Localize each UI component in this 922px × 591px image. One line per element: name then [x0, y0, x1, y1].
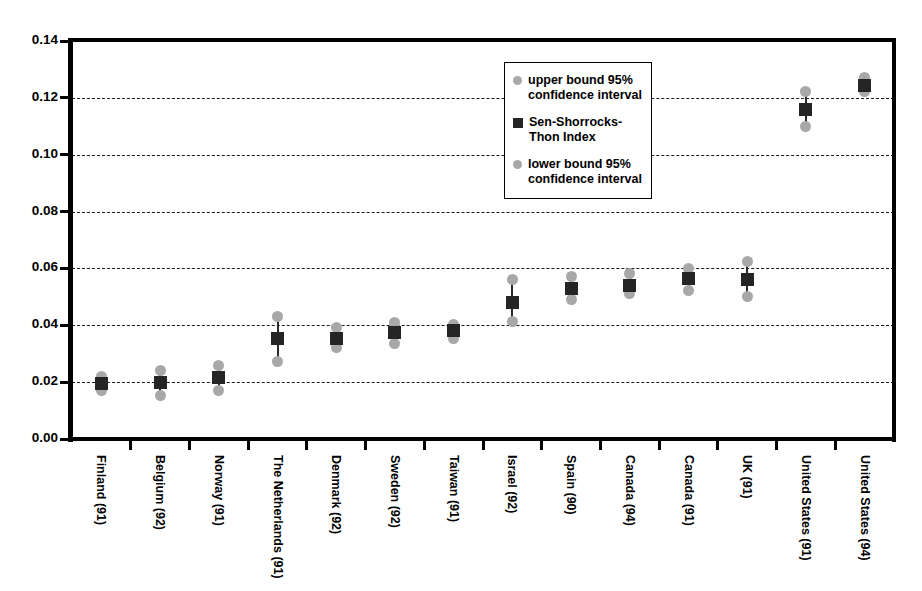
- lower-bound-point: [389, 338, 400, 349]
- legend-item-lower-bound: lower bound 95% confidence interval: [513, 157, 648, 187]
- lower-bound-point: [683, 285, 694, 296]
- x-tick-mark: [188, 437, 191, 450]
- index-point: [741, 273, 754, 286]
- lower-bound-point: [272, 356, 283, 367]
- index-point: [330, 332, 343, 345]
- y-tick-label: 0.00: [0, 430, 58, 445]
- index-point: [95, 377, 108, 390]
- lower-bound-marker-icon: [513, 160, 522, 169]
- x-category-label: Denmark (92): [329, 455, 342, 585]
- upper-bound-point: [213, 360, 224, 371]
- x-category-label: Finland (91): [94, 455, 107, 585]
- y-tick-label: 0.08: [0, 203, 58, 218]
- x-tick-mark: [775, 437, 778, 450]
- y-tick-label: 0.14: [0, 32, 58, 47]
- gridline: [72, 98, 894, 99]
- x-category-label: UK (91): [740, 455, 753, 585]
- chart-legend: upper bound 95% confidence interval Sen-…: [504, 62, 652, 199]
- index-point: [682, 272, 695, 285]
- x-category-label: Israel (92): [505, 455, 518, 585]
- legend-label-index: Sen-Shorrocks-Thon Index: [529, 115, 649, 145]
- x-category-label: Norway (91): [212, 455, 225, 585]
- x-tick-mark: [482, 437, 485, 450]
- upper-bound-point: [507, 274, 518, 285]
- axis-line-left: [68, 38, 73, 442]
- x-tick-mark: [599, 437, 602, 450]
- y-tick-label: 0.04: [0, 316, 58, 331]
- lower-bound-point: [566, 294, 577, 305]
- gridline: [72, 212, 894, 213]
- lower-bound-point: [155, 390, 166, 401]
- upper-bound-point: [566, 271, 577, 282]
- y-tick-label: 0.06: [0, 259, 58, 274]
- gridline: [72, 155, 894, 156]
- x-category-label: Canada (91): [682, 455, 695, 585]
- y-tick-label: 0.10: [0, 146, 58, 161]
- lower-bound-point: [742, 291, 753, 302]
- axis-line-top: [70, 38, 896, 42]
- gridline: [72, 268, 894, 269]
- legend-item-index: Sen-Shorrocks-Thon Index: [513, 115, 649, 145]
- x-category-label: United States (94): [858, 455, 871, 585]
- chart-canvas: 0.000.020.040.060.080.100.120.14 Finland…: [0, 0, 922, 591]
- upper-bound-point: [272, 311, 283, 322]
- lower-bound-point: [800, 121, 811, 132]
- index-point: [623, 279, 636, 292]
- legend-label-lower-bound: lower bound 95% confidence interval: [528, 157, 648, 187]
- x-tick-mark: [716, 437, 719, 450]
- y-tick-label: 0.02: [0, 373, 58, 388]
- index-point: [212, 371, 225, 384]
- gridline: [72, 382, 894, 383]
- x-tick-mark: [423, 437, 426, 450]
- upper-bound-point: [624, 268, 635, 279]
- index-point: [565, 282, 578, 295]
- legend-item-upper-bound: upper bound 95% confidence interval: [513, 73, 648, 103]
- x-category-label: The Netherlands (91): [271, 455, 284, 583]
- x-tick-mark: [364, 437, 367, 450]
- upper-bound-point: [155, 365, 166, 376]
- index-point: [154, 376, 167, 389]
- x-tick-mark: [305, 437, 308, 450]
- index-point: [388, 326, 401, 339]
- x-tick-mark: [834, 437, 837, 450]
- legend-label-upper-bound: upper bound 95% confidence interval: [528, 73, 648, 103]
- x-tick-mark: [540, 437, 543, 450]
- x-tick-mark: [658, 437, 661, 450]
- index-point: [271, 332, 284, 345]
- index-point: [447, 324, 460, 337]
- upper-bound-marker-icon: [513, 76, 522, 85]
- x-category-label: Canada (94): [623, 455, 636, 585]
- index-point: [799, 103, 812, 116]
- x-tick-mark: [247, 437, 250, 450]
- index-point: [506, 296, 519, 309]
- index-marker-icon: [513, 118, 523, 128]
- lower-bound-point: [213, 385, 224, 396]
- x-category-label: United States (91): [799, 455, 812, 585]
- gridline: [72, 325, 894, 326]
- x-category-label: Sweden (92): [388, 455, 401, 585]
- x-tick-mark: [129, 437, 132, 450]
- index-point: [858, 79, 871, 92]
- y-tick-label: 0.12: [0, 89, 58, 104]
- x-category-label: Taiwan (91): [447, 455, 460, 585]
- axis-line-right: [892, 38, 896, 442]
- x-category-label: Spain (90): [564, 455, 577, 585]
- x-category-label: Belgium (92): [153, 455, 166, 585]
- upper-bound-point: [742, 256, 753, 267]
- upper-bound-point: [800, 86, 811, 97]
